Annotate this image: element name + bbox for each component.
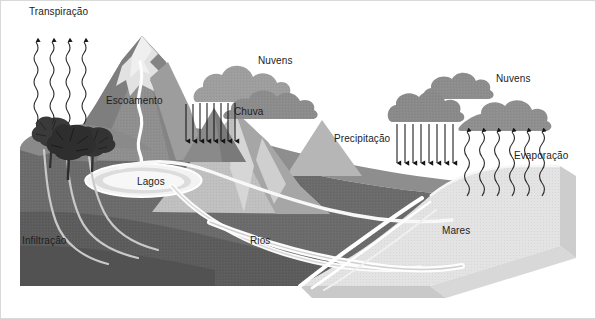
mountain-far-right bbox=[286, 120, 362, 176]
transpiration-wave bbox=[34, 42, 38, 124]
label-nuvens-left: Nuvens bbox=[258, 55, 293, 66]
transpiration-wave bbox=[50, 42, 54, 124]
label-evaporacao: Evaporação bbox=[514, 150, 568, 161]
label-nuvens-right: Nuvens bbox=[496, 73, 531, 84]
label-infiltracao: Infiltração bbox=[22, 235, 66, 246]
transpiration-wave bbox=[66, 42, 70, 124]
precipitation-arrows-right bbox=[397, 124, 453, 163]
label-transpiracao: Transpiração bbox=[29, 6, 88, 17]
label-rios: Rios bbox=[250, 235, 270, 246]
label-precipitacao: Precipitação bbox=[334, 133, 390, 144]
sea-front-shadow bbox=[300, 286, 446, 298]
scene-svg bbox=[0, 0, 596, 319]
sea-side-face bbox=[560, 166, 576, 258]
cloud-right-evap-texture bbox=[458, 100, 551, 131]
label-lagos: Lagos bbox=[137, 176, 165, 187]
label-mares: Mares bbox=[442, 225, 470, 236]
water-cycle-diagram: Transpiração Escoamento Nuvens Chuva Nuv… bbox=[0, 0, 596, 319]
transpiration-wave bbox=[82, 42, 86, 124]
transpiration-arrows bbox=[34, 42, 86, 124]
label-chuva: Chuva bbox=[234, 106, 263, 117]
label-escoamento: Escoamento bbox=[106, 95, 163, 106]
